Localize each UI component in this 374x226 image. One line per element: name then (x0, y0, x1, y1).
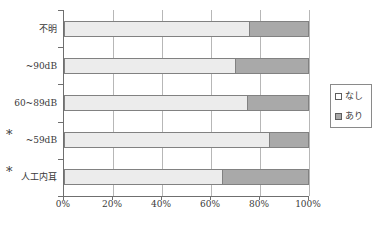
legend-label: なし (345, 91, 363, 101)
category-label: ~90dB (0, 60, 57, 72)
bar-segment-nashi (64, 169, 223, 185)
stacked-bar-chart-figure: なし あり 0%20%40%60%80%100%不明~90dB60~89dB~5… (0, 0, 374, 226)
x-tick-label: 60% (200, 199, 220, 209)
bar-segment-ari (249, 21, 309, 37)
legend-item-ari: あり (335, 111, 367, 121)
bar-row (64, 95, 309, 111)
legend-label: あり (345, 111, 363, 121)
bar-row (64, 132, 309, 148)
y-axis-tick (58, 47, 63, 48)
bar-row (64, 58, 309, 74)
x-tick-label: 40% (151, 199, 171, 209)
legend-item-nashi: なし (335, 91, 367, 101)
significance-asterisk: * (6, 128, 13, 141)
x-tick-label: 0% (56, 199, 70, 209)
bar-segment-ari (235, 58, 310, 74)
significance-asterisk: * (6, 165, 13, 178)
bar-segment-nashi (64, 132, 270, 148)
bar-segment-nashi (64, 95, 248, 111)
legend: なし あり (330, 84, 372, 128)
y-axis-tick (58, 122, 63, 123)
bar-row (64, 21, 309, 37)
category-label: 60~89dB (0, 97, 57, 109)
bar-segment-nashi (64, 58, 236, 74)
legend-swatch-dark (335, 113, 342, 120)
bar-segment-ari (222, 169, 309, 185)
bar-row (64, 169, 309, 185)
category-label: 不明 (0, 23, 57, 35)
legend-swatch-light (335, 93, 342, 100)
x-tick-label: 100% (295, 199, 321, 209)
plot-area (63, 10, 309, 197)
bar-segment-nashi (64, 21, 250, 37)
x-tick-label: 80% (249, 199, 269, 209)
bar-segment-ari (269, 132, 309, 148)
x-tick-label: 20% (102, 199, 122, 209)
y-axis-tick (58, 196, 63, 197)
y-axis-tick (58, 10, 63, 11)
y-axis-tick (58, 159, 63, 160)
y-axis-tick (58, 84, 63, 85)
bar-segment-ari (247, 95, 309, 111)
